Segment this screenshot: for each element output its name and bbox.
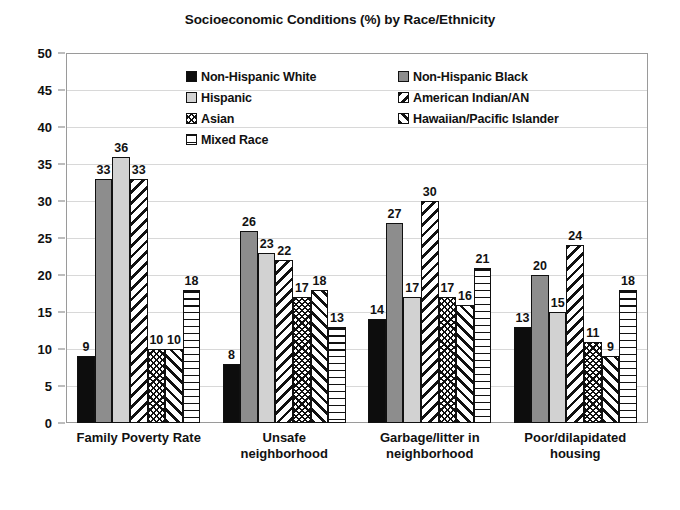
legend-item: Non-Hispanic White: [186, 66, 316, 87]
legend-label: Non-Hispanic Black: [413, 70, 528, 84]
bar: [619, 290, 637, 423]
bar: [95, 179, 113, 423]
bar-value-label: 18: [185, 274, 199, 288]
bar-value-label: 10: [167, 333, 181, 347]
legend-column-right: Non-Hispanic BlackAmerican Indian/ANHawa…: [398, 66, 559, 129]
legend-swatch-icon: [186, 113, 197, 124]
bar-value-label: 22: [277, 244, 291, 258]
bar-value-label: 20: [533, 259, 547, 273]
x-axis-category-label: Family Poverty Rate: [77, 430, 201, 446]
bar: [130, 179, 148, 423]
y-axis-tick-label: 35: [38, 157, 52, 172]
bar: [584, 342, 602, 423]
bar-value-label: 14: [370, 303, 384, 317]
y-axis: 50454035302520151050: [0, 53, 62, 423]
bar: [183, 290, 201, 423]
bar: [148, 349, 166, 423]
y-axis-tick-mark: [58, 53, 65, 54]
legend-label: Hawaiian/Pacific Islander: [413, 112, 559, 126]
bar: [456, 305, 474, 423]
bar-value-label: 17: [295, 281, 309, 295]
bar: [258, 253, 276, 423]
legend-item: Hawaiian/Pacific Islander: [398, 108, 559, 129]
bar-value-label: 33: [132, 163, 146, 177]
bar-value-label: 16: [458, 289, 472, 303]
bar: [439, 297, 457, 423]
chart-canvas: Socioeconomic Conditions (%) by Race/Eth…: [0, 0, 680, 510]
x-axis: Family Poverty RateUnsafe neighborhoodGa…: [66, 430, 648, 490]
legend-item: Non-Hispanic Black: [398, 66, 559, 87]
bar: [293, 297, 311, 423]
bar-value-label: 23: [260, 237, 274, 251]
bar-value-label: 17: [405, 281, 419, 295]
legend-swatch-icon: [398, 71, 409, 82]
bar: [386, 223, 404, 423]
y-axis-tick-label: 40: [38, 120, 52, 135]
y-axis-tick-mark: [58, 349, 65, 350]
bar: [311, 290, 329, 423]
legend-label: Asian: [201, 112, 234, 126]
bar-value-label: 18: [621, 274, 635, 288]
bar-value-label: 13: [330, 311, 344, 325]
y-axis-tick-label: 25: [38, 231, 52, 246]
bar-value-label: 21: [476, 252, 490, 266]
y-axis-tick-label: 50: [38, 46, 52, 61]
bar: [240, 231, 258, 423]
bar-value-label: 36: [114, 141, 128, 155]
legend-swatch-icon: [186, 134, 197, 145]
legend-item: Hispanic: [186, 87, 316, 108]
y-axis-tick-mark: [58, 275, 65, 276]
y-axis-tick-mark: [58, 423, 65, 424]
y-axis-tick-mark: [58, 312, 65, 313]
y-axis-tick-mark: [58, 238, 65, 239]
bar-value-label: 24: [568, 229, 582, 243]
legend-item: American Indian/AN: [398, 87, 559, 108]
bar: [368, 319, 386, 423]
bar-value-label: 9: [82, 340, 89, 354]
y-axis-tick-mark: [58, 386, 65, 387]
y-axis-tick-mark: [58, 127, 65, 128]
legend-item: Asian: [186, 108, 316, 129]
bar: [421, 201, 439, 423]
bar: [549, 312, 567, 423]
bar-value-label: 8: [228, 348, 235, 362]
bars-layer: 9333633101018826232217181314271730171621…: [66, 53, 648, 423]
y-axis-tick-label: 15: [38, 305, 52, 320]
legend-label: American Indian/AN: [413, 91, 529, 105]
x-axis-category-label: Unsafe neighborhood: [241, 430, 328, 462]
bar: [514, 327, 532, 423]
x-axis-category-label: Garbage/litter in neighborhood: [380, 430, 480, 462]
y-axis-tick-label: 0: [45, 416, 52, 431]
bar: [165, 349, 183, 423]
legend-swatch-icon: [186, 92, 197, 103]
bar-value-label: 27: [388, 207, 402, 221]
bar: [77, 356, 95, 423]
legend-item: Mixed Race: [186, 129, 316, 150]
y-axis-tick-mark: [58, 164, 65, 165]
x-axis-category-label: Poor/dilapidated housing: [524, 430, 626, 462]
bar: [403, 297, 421, 423]
legend-label: Non-Hispanic White: [201, 70, 316, 84]
legend-label: Hispanic: [201, 91, 252, 105]
chart-title: Socioeconomic Conditions (%) by Race/Eth…: [0, 12, 680, 27]
legend-swatch-icon: [398, 113, 409, 124]
bar-value-label: 13: [515, 311, 529, 325]
bar-value-label: 17: [440, 281, 454, 295]
bar: [275, 260, 293, 423]
bar-value-label: 30: [423, 185, 437, 199]
bar: [474, 268, 492, 423]
bar-value-label: 26: [242, 215, 256, 229]
legend-swatch-icon: [398, 92, 409, 103]
legend-column-left: Non-Hispanic WhiteHispanicAsianMixed Rac…: [186, 66, 316, 150]
bar-value-label: 9: [607, 340, 614, 354]
bar: [112, 157, 130, 423]
y-axis-tick-label: 30: [38, 194, 52, 209]
bar: [223, 364, 241, 423]
y-axis-tick-label: 5: [45, 379, 52, 394]
bar: [531, 275, 549, 423]
bar-value-label: 10: [149, 333, 163, 347]
legend-label: Mixed Race: [201, 133, 268, 147]
legend-swatch-icon: [186, 71, 197, 82]
bar: [602, 356, 620, 423]
bar-value-label: 15: [551, 296, 565, 310]
